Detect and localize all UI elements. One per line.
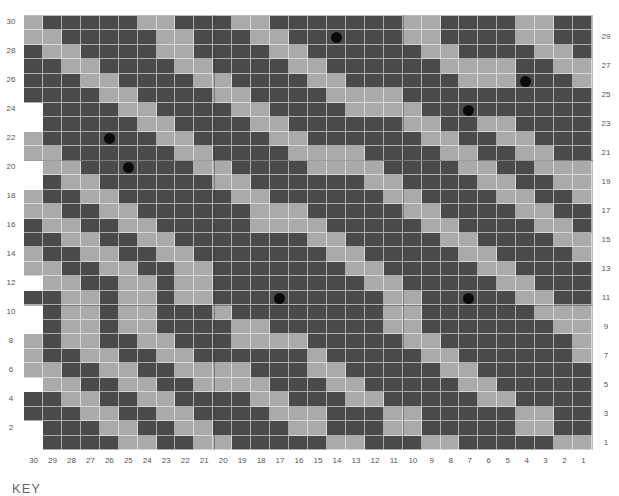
chart-cell (422, 88, 441, 102)
chart-cell (403, 276, 422, 290)
chart-cell (24, 117, 43, 131)
chart-cell (497, 59, 516, 73)
chart-cell (535, 421, 554, 435)
chart-cell (62, 421, 81, 435)
chart-cell (497, 436, 516, 450)
chart-cell (346, 88, 365, 102)
chart-cell (459, 247, 478, 261)
chart-cell (365, 45, 384, 59)
chart-cell (289, 16, 308, 30)
chart-cell (157, 103, 176, 117)
chart-cell (270, 421, 289, 435)
chart-cell (459, 74, 478, 88)
chart-cell (422, 305, 441, 319)
chart-cell (422, 363, 441, 377)
chart-cell (478, 204, 497, 218)
chart-cell (100, 334, 119, 348)
chart-cell (100, 436, 119, 450)
chart-cell (308, 392, 327, 406)
chart-cell (554, 146, 573, 160)
chart-cell (24, 262, 43, 276)
chart-cell (119, 175, 138, 189)
chart-cell (251, 320, 270, 334)
chart-cell (289, 190, 308, 204)
chart-cell (422, 262, 441, 276)
chart-cell (157, 16, 176, 30)
chart-cell (175, 392, 194, 406)
chart-cell (403, 233, 422, 247)
chart-cell (213, 421, 232, 435)
chart-cell (194, 117, 213, 131)
chart-cell (497, 175, 516, 189)
chart-cell (119, 117, 138, 131)
chart-cell (308, 74, 327, 88)
chart-cell (289, 407, 308, 421)
chart-cell (403, 204, 422, 218)
chart-cell (194, 363, 213, 377)
chart-cell (81, 30, 100, 44)
chart-cell (138, 276, 157, 290)
chart-cell (365, 219, 384, 233)
chart-cell (24, 320, 43, 334)
chart-cell (289, 146, 308, 160)
chart-cell (270, 59, 289, 73)
chart-cell (289, 88, 308, 102)
chart-cell (554, 59, 573, 73)
chart-cell (43, 103, 62, 117)
chart-cell (573, 190, 592, 204)
chart-cell (43, 378, 62, 392)
chart-cell (573, 16, 592, 30)
chart-cell (251, 88, 270, 102)
chart-cell (554, 88, 573, 102)
chart-cell (441, 421, 460, 435)
chart-cell (43, 262, 62, 276)
chart-cell (81, 291, 100, 305)
chart-cell (138, 320, 157, 334)
chart-cell (459, 59, 478, 73)
chart-cell (62, 407, 81, 421)
chart-cell (346, 291, 365, 305)
chart-cell (327, 349, 346, 363)
chart-cell (573, 161, 592, 175)
chart-cell (100, 45, 119, 59)
chart-cell (62, 146, 81, 160)
chart-cell (289, 291, 308, 305)
chart-cell (441, 132, 460, 146)
chart-cell (232, 74, 251, 88)
chart-cell (346, 262, 365, 276)
column-label: 11 (384, 456, 403, 465)
chart-cell (157, 117, 176, 131)
chart-cell (100, 378, 119, 392)
chart-cell (497, 219, 516, 233)
chart-cell (459, 305, 478, 319)
chart-cell (497, 407, 516, 421)
chart-cell (175, 16, 194, 30)
chart-cell (554, 190, 573, 204)
chart-cell (213, 363, 232, 377)
chart-cell (459, 334, 478, 348)
chart-cell (119, 262, 138, 276)
chart-cell (138, 262, 157, 276)
chart-cell (308, 363, 327, 377)
chart-cell (441, 334, 460, 348)
chart-cell (100, 233, 119, 247)
chart-cell (232, 132, 251, 146)
chart-cell (119, 363, 138, 377)
chart-cell (232, 219, 251, 233)
chart-cell (441, 262, 460, 276)
chart-cell (232, 103, 251, 117)
chart-cell (497, 132, 516, 146)
chart-cell (194, 262, 213, 276)
chart-cell (535, 161, 554, 175)
row-label: 5 (597, 380, 615, 389)
chart-cell (497, 161, 516, 175)
chart-cell (441, 88, 460, 102)
chart-cell (308, 88, 327, 102)
chart-cell (175, 407, 194, 421)
chart-cell (365, 407, 384, 421)
chart-cell (100, 262, 119, 276)
chart-cell (213, 219, 232, 233)
chart-cell (194, 132, 213, 146)
chart-cell (138, 146, 157, 160)
chart-cell (81, 334, 100, 348)
